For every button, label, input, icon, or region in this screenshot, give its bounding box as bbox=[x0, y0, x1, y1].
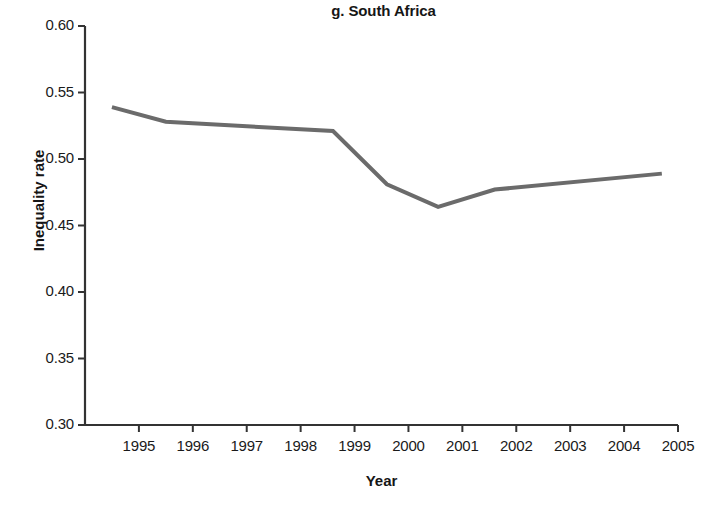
plot-area bbox=[0, 0, 707, 506]
chart-container: g. South Africa Inequality rate Year 0.6… bbox=[0, 0, 707, 506]
axes bbox=[78, 26, 678, 432]
data-series bbox=[112, 107, 662, 207]
series-line-0 bbox=[112, 107, 662, 207]
